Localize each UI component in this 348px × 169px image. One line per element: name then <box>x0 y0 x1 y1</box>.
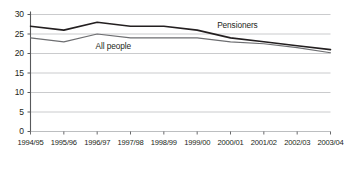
x-axis-tick-label: 2000/01 <box>214 139 248 147</box>
x-axis-tick-label: 2001/02 <box>247 139 281 147</box>
y-axis-tick-label: 5 <box>2 108 24 117</box>
x-axis-tick-label: 1999/00 <box>180 139 214 147</box>
series-line <box>31 22 331 49</box>
y-axis-tick-label: 15 <box>2 69 24 78</box>
x-axis-tick-label: 2002/03 <box>280 139 314 147</box>
y-axis-tick-label: 25 <box>2 30 24 39</box>
x-axis-tick-label: 1997/98 <box>114 139 148 147</box>
series-annotation-all-people: All people <box>96 42 131 50</box>
series-line <box>31 34 331 53</box>
x-axis-tick-label: 1996/97 <box>80 139 114 147</box>
y-axis-tick-label: 30 <box>2 10 24 19</box>
y-axis-tick-label: 20 <box>2 49 24 58</box>
x-axis-tick-label: 1995/96 <box>47 139 81 147</box>
y-axis-tick-label: 10 <box>2 88 24 97</box>
y-axis-tick-label: 0 <box>2 127 24 136</box>
series-annotation-pensioners: Pensioners <box>217 21 258 29</box>
x-axis-tick-label: 2003/04 <box>314 139 348 147</box>
gridlines <box>31 15 331 132</box>
series-lines <box>31 22 331 52</box>
x-axis-tick-label: 1998/99 <box>147 139 181 147</box>
x-axis-tick-label: 1994/95 <box>14 139 48 147</box>
